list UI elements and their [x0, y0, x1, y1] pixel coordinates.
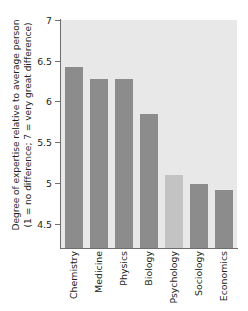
- y-tick-label-wrap: 5: [14, 179, 52, 188]
- y-axis-title-line1: Degree of expertise relative to average …: [10, 19, 22, 230]
- bar-sociology: [190, 184, 208, 248]
- y-tick-label-wrap: 4.5: [14, 220, 52, 229]
- bar-biology: [140, 114, 158, 248]
- y-axis-title-line2: (1 = no difference; 7 = very great diffe…: [22, 19, 34, 230]
- x-tick-label-economics: Economics: [219, 251, 229, 301]
- x-tick-label-chemistry: Chemistry: [69, 251, 79, 299]
- y-tick-label: 6.5: [14, 57, 52, 66]
- y-tick-label: 4.5: [14, 220, 52, 229]
- bar-economics: [215, 190, 233, 248]
- x-axis-line: [60, 248, 238, 249]
- bar-chart-figure: Degree of expertise relative to average …: [0, 0, 248, 311]
- x-label-slot: Psychology: [162, 251, 186, 309]
- y-tick-label-wrap: 6: [14, 97, 52, 106]
- y-tick-label-wrap: 5.5: [14, 138, 52, 147]
- x-tick-label-physics: Physics: [119, 251, 129, 286]
- y-tick-label: 5: [14, 179, 52, 188]
- x-label-slot: Physics: [112, 251, 136, 309]
- y-tick-label: 5.5: [14, 138, 52, 147]
- bar-medicine: [90, 79, 108, 248]
- x-label-slot: Sociology: [187, 251, 211, 309]
- bar-chemistry: [65, 67, 83, 248]
- y-tick-label-wrap: 7: [14, 16, 52, 25]
- x-label-slot: Biology: [137, 251, 161, 309]
- y-axis-line: [60, 19, 61, 249]
- y-tick-mark: [55, 101, 60, 102]
- x-label-slot: Chemistry: [62, 251, 86, 309]
- x-tick-label-sociology: Sociology: [194, 251, 204, 296]
- x-tick-label-medicine: Medicine: [94, 251, 104, 293]
- y-tick-label-wrap: 6.5: [14, 57, 52, 66]
- y-tick-label: 7: [14, 16, 52, 25]
- x-label-slot: Medicine: [87, 251, 111, 309]
- y-tick-label: 6: [14, 97, 52, 106]
- x-tick-label-biology: Biology: [144, 251, 154, 286]
- y-tick-mark: [55, 20, 60, 21]
- bar-psychology: [165, 175, 183, 248]
- bar-physics: [115, 79, 133, 248]
- x-label-slot: Economics: [212, 251, 236, 309]
- x-tick-label-psychology: Psychology: [169, 251, 179, 304]
- y-tick-mark: [55, 183, 60, 184]
- y-tick-mark: [55, 61, 60, 62]
- y-axis-title: Degree of expertise relative to average …: [0, 0, 44, 250]
- y-tick-mark: [55, 142, 60, 143]
- y-tick-mark: [55, 224, 60, 225]
